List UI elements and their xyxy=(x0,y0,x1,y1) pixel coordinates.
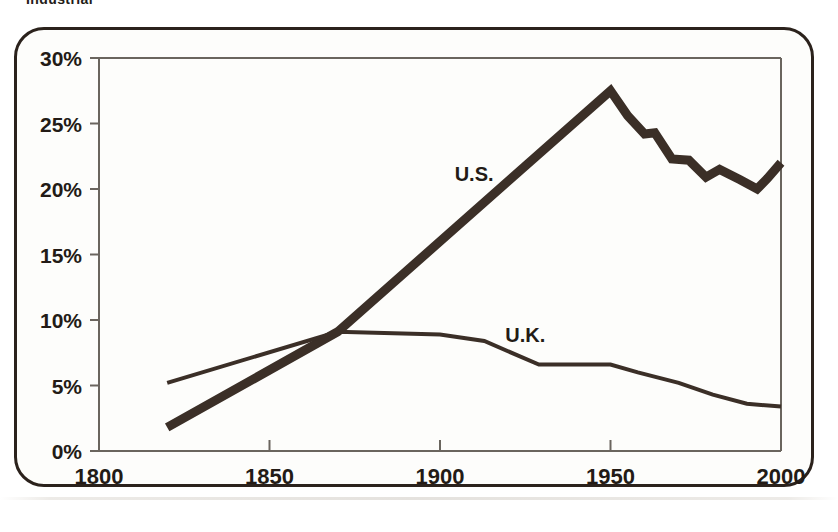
scan-page-edge xyxy=(0,497,838,500)
y-axis-tick-label: 0% xyxy=(52,440,83,463)
series-label-us: U.S. xyxy=(455,163,494,185)
x-axis-tick-label: 1900 xyxy=(416,464,465,484)
series-layer xyxy=(167,91,781,428)
y-axis-tick-label: 30% xyxy=(40,47,82,70)
axis-layer xyxy=(90,58,781,451)
y-axis-tick-label: 20% xyxy=(40,178,82,201)
figure-frame: 0%5%10%15%20%25%30%18001850190019502000 … xyxy=(14,27,814,487)
series-line-uk xyxy=(167,332,781,407)
series-line-us xyxy=(167,91,781,428)
series-label-uk: U.K. xyxy=(505,324,545,346)
clipped-heading-text: Industrial xyxy=(26,0,93,5)
line-chart: 0%5%10%15%20%25%30%18001850190019502000 … xyxy=(17,30,811,484)
x-axis-tick-label: 1950 xyxy=(586,464,635,484)
y-axis-tick-label: 15% xyxy=(40,244,82,267)
y-axis-tick-label: 5% xyxy=(52,375,83,398)
y-axis-tick-label: 25% xyxy=(40,113,82,136)
x-axis-tick-label: 2000 xyxy=(757,464,806,484)
x-axis-tick-label: 1800 xyxy=(75,464,124,484)
y-axis-tick-label: 10% xyxy=(40,309,82,332)
x-axis-tick-label: 1850 xyxy=(245,464,294,484)
tick-label-layer: 0%5%10%15%20%25%30%18001850190019502000 xyxy=(40,47,806,484)
